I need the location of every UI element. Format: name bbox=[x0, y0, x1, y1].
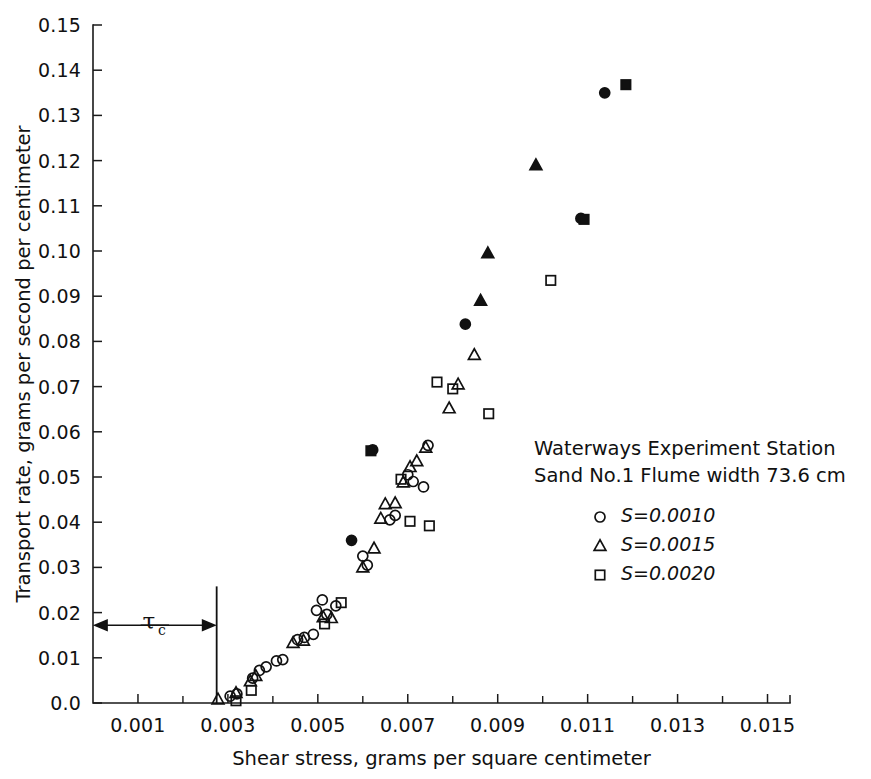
data-point-circle bbox=[600, 88, 610, 98]
y-tick-label: 0.10 bbox=[38, 240, 81, 262]
data-point-triangle bbox=[468, 349, 480, 360]
x-tick-label: 0.003 bbox=[200, 714, 255, 736]
x-tick-label: 0.009 bbox=[470, 714, 525, 736]
data-point-triangle bbox=[475, 295, 487, 306]
data-point-square bbox=[425, 521, 434, 530]
data-point-square bbox=[546, 276, 555, 285]
legend-entry-label: S=0.0020 bbox=[621, 562, 715, 584]
tau-arrow-right-head bbox=[203, 620, 215, 630]
legend-entry-label: S=0.0010 bbox=[621, 504, 715, 526]
data-point-circle bbox=[460, 319, 470, 329]
data-point-triangle bbox=[443, 402, 455, 413]
axis-spines bbox=[93, 25, 790, 703]
y-tick-label: 0.03 bbox=[38, 556, 81, 578]
data-point-triangle bbox=[530, 159, 542, 170]
x-tick-label: 0.005 bbox=[290, 714, 345, 736]
data-point-square bbox=[247, 686, 256, 695]
data-point-square bbox=[579, 215, 588, 224]
y-tick-label: 0.09 bbox=[38, 285, 81, 307]
y-tick-label: 0.06 bbox=[38, 421, 81, 443]
x-tick-label: 0.007 bbox=[380, 714, 435, 736]
y-tick-label: 0.15 bbox=[38, 14, 81, 36]
x-tick-label: 0.015 bbox=[740, 714, 795, 736]
y-tick-label: 0.05 bbox=[38, 466, 81, 488]
y-tick-label: 0.0 bbox=[50, 692, 81, 714]
y-tick-label: 0.11 bbox=[38, 195, 81, 217]
legend-entry-label: S=0.0015 bbox=[621, 533, 715, 555]
tau-symbol: τ bbox=[142, 608, 155, 634]
y-tick-label: 0.02 bbox=[38, 602, 81, 624]
x-tick-label: 0.011 bbox=[560, 714, 615, 736]
y-axis-title: Transport rate, grams per second per cen… bbox=[12, 124, 35, 603]
data-point-triangle bbox=[411, 455, 423, 466]
y-tick-label: 0.14 bbox=[38, 59, 81, 81]
data-point-square bbox=[366, 446, 375, 455]
data-point-circle bbox=[347, 535, 357, 545]
x-axis-title: Shear stress, grams per square centimete… bbox=[232, 747, 652, 770]
y-tick-label: 0.01 bbox=[38, 647, 81, 669]
y-tick-label: 0.13 bbox=[38, 104, 81, 126]
data-point-circle bbox=[317, 595, 327, 605]
legend-marker-circle bbox=[595, 512, 605, 522]
tau-subscript: c bbox=[158, 622, 166, 638]
y-tick-label: 0.08 bbox=[38, 330, 81, 352]
y-tick-label: 0.04 bbox=[38, 511, 81, 533]
data-point-square bbox=[621, 80, 630, 89]
data-point-circle bbox=[419, 482, 429, 492]
y-tick-label: 0.12 bbox=[38, 150, 81, 172]
data-point-circle bbox=[308, 629, 318, 639]
data-point-triangle bbox=[368, 542, 380, 553]
x-tick-label: 0.001 bbox=[110, 714, 165, 736]
data-point-square bbox=[432, 377, 441, 386]
legend-marker-square bbox=[595, 570, 604, 579]
data-point-circle bbox=[311, 605, 321, 615]
legend-heading-line-1: Waterways Experiment Station bbox=[534, 437, 836, 460]
data-point-triangle bbox=[482, 247, 494, 258]
data-point-circle bbox=[278, 655, 288, 665]
data-point-square bbox=[484, 409, 493, 418]
x-tick-label: 0.013 bbox=[650, 714, 705, 736]
scatter-plot-svg: 0.00.010.020.030.040.050.060.070.080.090… bbox=[0, 0, 871, 779]
data-point-circle bbox=[408, 477, 418, 487]
data-point-triangle bbox=[389, 497, 401, 508]
legend-marker-triangle bbox=[594, 540, 606, 551]
tau-arrow-left-head bbox=[95, 620, 107, 630]
data-point-square bbox=[405, 517, 414, 526]
y-tick-label: 0.07 bbox=[38, 376, 81, 398]
chart-figure: 0.00.010.020.030.040.050.060.070.080.090… bbox=[0, 0, 871, 779]
legend-heading-line-2: Sand No.1 Flume width 73.6 cm bbox=[534, 464, 846, 487]
